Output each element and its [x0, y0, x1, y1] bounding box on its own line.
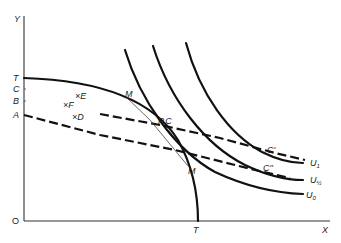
tangent-line-MM: [126, 97, 188, 166]
label-U-half: U½: [310, 175, 322, 186]
origin-label: O: [12, 216, 19, 226]
y-tick-A: A: [12, 110, 19, 120]
y-axis-label: Y: [14, 14, 21, 24]
label-U1: U1: [310, 158, 320, 169]
label-C-double-prime: C'': [263, 163, 273, 173]
trade-diagram: Y X O T C B A T ×E ×F ×D M M P,C C' C'' …: [0, 0, 341, 243]
label-C-prime: C': [267, 145, 275, 155]
y-tick-B: B: [13, 96, 19, 106]
point-E: ×E: [75, 91, 87, 101]
x-tick-T: T: [193, 225, 200, 235]
label-M-lower: M: [188, 166, 196, 176]
point-D: ×D: [72, 112, 84, 122]
x-axis-label: X: [321, 225, 329, 235]
label-M-upper: M: [125, 89, 133, 99]
y-tick-T: T: [13, 73, 20, 83]
label-PC: P,C: [158, 116, 172, 126]
y-tick-C: C: [13, 84, 20, 94]
point-F: ×F: [63, 100, 74, 110]
label-U0: U0: [306, 190, 317, 201]
